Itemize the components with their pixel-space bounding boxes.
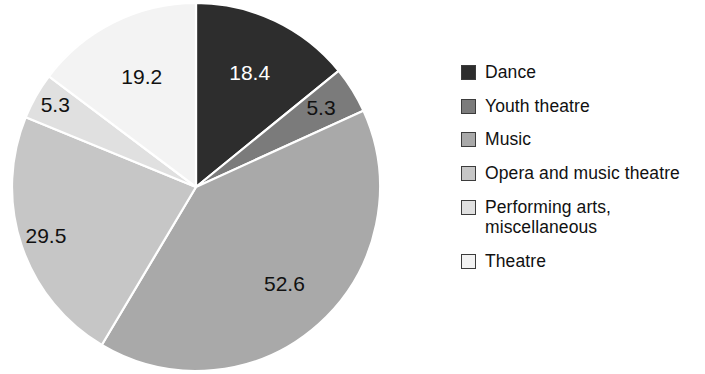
legend-swatch-icon xyxy=(461,200,476,215)
legend-swatch-icon xyxy=(461,99,476,114)
legend-item-label: Dance xyxy=(485,62,536,83)
legend-item[interactable]: Opera and music theatre xyxy=(461,163,705,184)
legend-item-label: Opera and music theatre xyxy=(485,163,680,184)
pie-slice-value-label: 18.4 xyxy=(229,61,270,84)
pie-slice-value-label: 52.6 xyxy=(264,272,305,295)
pie-slice-group xyxy=(12,3,380,371)
legend-swatch-icon xyxy=(461,254,476,269)
legend-item[interactable]: Music xyxy=(461,129,705,150)
legend-item[interactable]: Performing arts, miscellaneous xyxy=(461,197,705,238)
legend-item-label: Performing arts, miscellaneous xyxy=(485,197,611,238)
legend-item-label: Theatre xyxy=(485,251,546,272)
pie-chart-figure: 18.45.352.629.55.319.2 DanceYouth theatr… xyxy=(0,0,705,374)
legend-swatch-icon xyxy=(461,132,476,147)
pie-chart-plot-area: 18.45.352.629.55.319.2 xyxy=(0,0,400,374)
chart-legend: DanceYouth theatreMusicOpera and music t… xyxy=(461,62,705,271)
pie-chart-svg: 18.45.352.629.55.319.2 xyxy=(0,0,400,374)
legend-item[interactable]: Theatre xyxy=(461,251,705,272)
legend-item[interactable]: Youth theatre xyxy=(461,96,705,117)
pie-slice-value-label: 5.3 xyxy=(306,96,335,119)
legend-item-label: Music xyxy=(485,129,531,150)
pie-slice-value-label: 5.3 xyxy=(41,93,70,116)
legend-swatch-icon xyxy=(461,166,476,181)
legend-item-label: Youth theatre xyxy=(485,96,590,117)
legend-item[interactable]: Dance xyxy=(461,62,705,83)
pie-slice-value-label: 19.2 xyxy=(121,65,162,88)
pie-slice-value-label: 29.5 xyxy=(25,224,66,247)
legend-swatch-icon xyxy=(461,65,476,80)
